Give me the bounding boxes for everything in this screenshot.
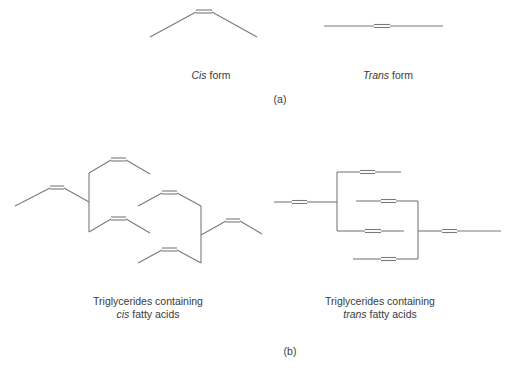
cis-triglycerides-structure	[15, 158, 262, 263]
cis-triglycerides-rest: fatty acids	[129, 308, 179, 320]
trans-italic: Trans	[363, 69, 389, 81]
trans-form-structure	[324, 25, 443, 28]
cis-italic-b: cis	[116, 308, 129, 320]
trans-triglycerides-label: Triglycerides containing trans fatty aci…	[310, 295, 450, 321]
trans-form-text: form	[389, 69, 413, 81]
trans-triglycerides-structure	[274, 171, 501, 261]
cis-form-structure	[150, 10, 257, 37]
caption-a: (a)	[265, 93, 295, 106]
trans-triglycerides-line1: Triglycerides containing	[310, 295, 450, 308]
cis-italic: Cis	[191, 69, 206, 81]
cis-triglycerides-line1: Triglycerides containing	[78, 295, 218, 308]
trans-triglycerides-rest: fatty acids	[367, 308, 417, 320]
cis-triglycerides-label: Triglycerides containing cis fatty acids	[78, 295, 218, 321]
cis-form-label: Cis form	[176, 69, 246, 82]
trans-form-label: Trans form	[348, 69, 428, 82]
trans-italic-b: trans	[343, 308, 366, 320]
cis-triglycerides-line2: cis fatty acids	[78, 308, 218, 321]
caption-b: (b)	[275, 345, 305, 358]
cis-form-text: form	[207, 69, 231, 81]
trans-triglycerides-line2: trans fatty acids	[310, 308, 450, 321]
